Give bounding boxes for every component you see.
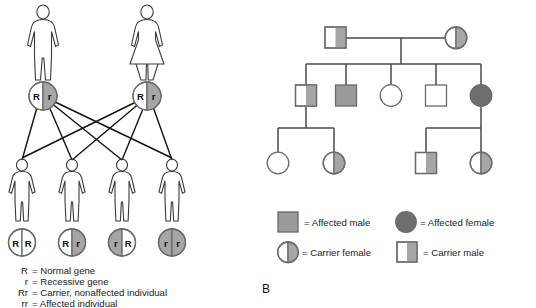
key-text-3: = Affected individual — [32, 298, 117, 308]
mother-allele-left: R — [137, 91, 144, 102]
key-text-1: = Recessive gene — [32, 276, 109, 287]
offspring-1-allele-right: R — [25, 238, 32, 249]
key-symbol-0: R — [21, 265, 28, 276]
offspring-4-allele-left: r — [164, 238, 168, 249]
legend-label-carrier-male: = Carrier male — [423, 247, 484, 258]
father-allele-left: R — [33, 91, 40, 102]
pedigree-gen1-carrier-male — [325, 27, 346, 48]
key-text-0: = Normal gene — [32, 265, 95, 276]
offspring-figure-2 — [59, 159, 85, 221]
offspring-figure-1 — [9, 159, 35, 221]
legend-label-affected-female: = Affected female — [420, 217, 494, 228]
key-symbol-1: r — [25, 276, 29, 287]
panel-a-key: R = Normal gene r = Recessive gene Rr = … — [18, 265, 167, 308]
pedigree-gen3-normal-female — [267, 152, 289, 174]
pedigree-gen2-carrier-male — [296, 85, 317, 106]
mother-allele-right: r — [152, 91, 156, 102]
legend-swatch-affected-male — [278, 212, 298, 232]
legend-label-affected-male: = Affected male — [304, 217, 370, 228]
offspring-1-allele-left: R — [12, 238, 19, 249]
offspring-genotype-2: R r — [59, 229, 86, 256]
offspring-4-allele-right: r — [176, 238, 180, 249]
offspring-3-allele-right: R — [125, 238, 132, 249]
pedigree-gen3-carrier-female-left — [323, 152, 345, 174]
legend-swatch-affected-female — [396, 212, 417, 233]
offspring-2-allele-right: r — [76, 238, 80, 249]
legend-swatch-carrier-male — [397, 242, 417, 262]
parent-genotype-father: R r — [29, 82, 57, 110]
pedigree-legend: = Affected male = Affected female = Carr… — [278, 212, 495, 263]
parent-genotype-mother: R r — [133, 82, 161, 110]
key-symbol-2: Rr — [18, 287, 29, 298]
pedigree-gen2-affected-female — [470, 85, 492, 107]
key-symbol-3: rr — [22, 298, 29, 308]
legend-swatch-carrier-female — [278, 242, 299, 263]
offspring-genotype-3: r R — [109, 229, 136, 256]
parent-mother-figure — [130, 5, 164, 80]
pedigree-gen2-normal-female — [380, 85, 402, 107]
offspring-3-allele-left: r — [114, 238, 118, 249]
figure-root: R r R r — [0, 0, 536, 308]
offspring-2-allele-left: R — [62, 238, 69, 249]
offspring-figure-4 — [159, 159, 185, 221]
panel-a-canvas: R r R r — [0, 0, 250, 308]
pedigree-gen3-carrier-female-right — [470, 152, 492, 174]
parent-father-figure — [28, 5, 59, 80]
panel-b-pedigree-chart: = Affected male = Affected female = Carr… — [250, 0, 536, 308]
offspring-figure-3 — [109, 159, 135, 221]
pedigree-gen3-carrier-male — [416, 153, 437, 174]
key-text-2: = Carrier, nonaffected individual — [32, 287, 167, 298]
panel-letter-b: B — [262, 282, 270, 296]
offspring-genotype-1: R R — [9, 229, 36, 256]
panel-b-canvas: = Affected male = Affected female = Carr… — [250, 0, 536, 308]
panel-a-inheritance-cross: R r R r — [0, 0, 250, 308]
father-allele-right: r — [48, 91, 52, 102]
pedigree-gen1-carrier-female — [445, 27, 467, 49]
pedigree-gen2-normal-male — [426, 85, 447, 106]
legend-label-carrier-female: = Carrier female — [302, 247, 371, 258]
pedigree-gen2-affected-male — [336, 85, 357, 106]
offspring-genotype-4: r r — [159, 229, 186, 256]
